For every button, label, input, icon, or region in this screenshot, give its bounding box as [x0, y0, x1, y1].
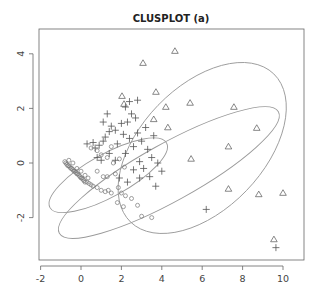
triangle-point: [231, 104, 238, 110]
plus-point: [144, 146, 151, 153]
plus-point: [120, 131, 127, 138]
circle-point: [71, 161, 75, 165]
plus-point: [152, 183, 159, 190]
plus-point: [100, 119, 107, 126]
triangle-point: [188, 156, 195, 162]
plus-point: [118, 120, 125, 127]
plus-point: [106, 128, 113, 135]
plus-point: [128, 110, 135, 117]
circle-point: [105, 156, 109, 160]
circle-point: [111, 161, 115, 165]
circle-point: [109, 145, 113, 149]
plus-point: [140, 165, 147, 172]
chart-title: CLUSPLOT (a): [133, 13, 210, 24]
plus-point: [130, 166, 137, 173]
plus-point: [142, 124, 149, 131]
plot-frame: [39, 29, 304, 260]
x-tick-label: 6: [199, 273, 205, 284]
circle-point: [95, 186, 99, 190]
triangle-point: [225, 186, 232, 192]
y-tick-label: -2: [15, 213, 26, 222]
triangle-point: [172, 48, 179, 54]
circle-point: [123, 194, 127, 198]
plus-point: [136, 158, 143, 165]
triangle-point: [187, 100, 194, 106]
triangle-point: [150, 116, 157, 122]
circle-point: [95, 149, 99, 153]
plus-point: [108, 123, 115, 130]
y-tick-label: 2: [15, 105, 26, 111]
plus-point: [124, 119, 131, 126]
triangle-point: [253, 125, 260, 131]
triangle-point: [119, 93, 126, 99]
circle-point: [95, 169, 99, 173]
triangle-point: [163, 104, 170, 110]
circle-point: [86, 176, 90, 180]
plus-point: [112, 127, 119, 134]
plus-point: [130, 143, 137, 150]
triangle-point: [153, 89, 160, 95]
circle-point: [99, 188, 103, 192]
plus-point: [102, 134, 109, 141]
circle-point: [140, 214, 144, 218]
cluster-ellipses: [40, 31, 318, 265]
plus-point: [104, 110, 111, 117]
circle-point: [67, 158, 71, 162]
plus-point: [124, 179, 131, 186]
triangle-point: [271, 236, 278, 242]
x-tick-label: 2: [118, 273, 124, 284]
x-tick-label: 0: [78, 273, 84, 284]
plus-point: [158, 168, 165, 175]
plus-point: [148, 154, 155, 161]
plus-point: [122, 104, 129, 111]
triangle-point: [165, 124, 172, 130]
plus-point: [100, 138, 107, 145]
y-tick-label: 4: [15, 51, 26, 57]
x-tick-label: -2: [36, 273, 45, 284]
plus-point: [90, 139, 97, 146]
circle-point: [115, 201, 119, 205]
circle-point: [113, 172, 117, 176]
cluster-ellipse-3: [86, 31, 317, 265]
plus-point: [132, 114, 139, 121]
circle-point: [101, 175, 105, 179]
circle-point: [136, 203, 140, 207]
plus-point: [122, 150, 129, 157]
triangle-point: [140, 60, 147, 66]
y-axis: -2024: [15, 51, 33, 223]
circle-point: [121, 205, 125, 209]
plus-point: [154, 160, 161, 167]
plus-point: [203, 206, 210, 213]
circle-point: [109, 191, 113, 195]
circle-point: [150, 216, 154, 220]
data-points: [63, 48, 286, 251]
circle-point: [79, 169, 83, 173]
y-tick-label: 0: [15, 160, 26, 166]
circle-point: [130, 196, 134, 200]
triangle-point: [280, 190, 287, 196]
triangle-point: [225, 143, 232, 149]
plus-point: [136, 175, 143, 182]
x-axis: -20246810: [36, 266, 289, 284]
x-tick-label: 4: [159, 273, 165, 284]
plus-point: [126, 98, 133, 105]
plus-point: [272, 244, 279, 251]
triangle-point: [255, 191, 262, 197]
x-tick-label: 8: [240, 273, 246, 284]
clusplot-chart: CLUSPLOT (a) -20246810 -2024: [0, 0, 320, 298]
x-tick-label: 10: [277, 273, 289, 284]
plus-point: [134, 97, 141, 104]
